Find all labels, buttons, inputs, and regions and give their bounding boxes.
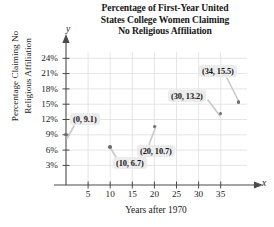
y-tick-label: 15% bbox=[32, 99, 58, 109]
x-tick-label: 5 bbox=[78, 189, 98, 199]
data-point bbox=[108, 145, 112, 149]
data-label-4: (34, 15.5) bbox=[199, 65, 237, 77]
y-tick-label: 24% bbox=[32, 53, 58, 63]
y-tick-label: 6% bbox=[32, 145, 58, 155]
data-label-2: (20, 10.7) bbox=[137, 145, 175, 157]
y-tick-label: 18% bbox=[32, 84, 58, 94]
chart-figure: Percentage of First-Year United States C… bbox=[0, 0, 274, 227]
leader-line-p0 bbox=[67, 126, 74, 139]
data-label-0: (0, 9.1) bbox=[70, 113, 100, 125]
x-tick-label: 25 bbox=[167, 189, 187, 199]
y-tick-label: 3% bbox=[32, 160, 58, 170]
y-tick-label: 9% bbox=[32, 129, 58, 139]
x-tick-label: 20 bbox=[144, 189, 164, 199]
data-point bbox=[64, 133, 68, 137]
x-tick-label: 15 bbox=[122, 189, 142, 199]
x-tick-label: 30 bbox=[189, 189, 209, 199]
y-tick-label: 21% bbox=[32, 68, 58, 78]
data-point bbox=[237, 100, 241, 104]
y-tick-label: 12% bbox=[32, 114, 58, 124]
y-axis-arrow bbox=[63, 36, 69, 43]
x-tick-label: 35 bbox=[211, 189, 231, 199]
data-label-1: (10, 6.7) bbox=[113, 157, 147, 169]
x-axis-arrow bbox=[255, 182, 262, 188]
x-tick-label: 10 bbox=[100, 189, 120, 199]
data-label-3: (30, 13.2) bbox=[168, 90, 206, 102]
